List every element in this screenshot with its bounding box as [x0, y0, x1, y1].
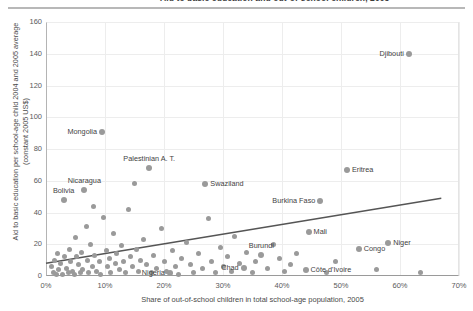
scatter-point — [344, 167, 350, 173]
scatter-point — [200, 266, 205, 271]
x-tick-label: 40% — [262, 281, 302, 290]
x-tick-label: 30% — [203, 281, 243, 290]
scatter-point — [130, 264, 135, 269]
scatter-point-label: Swaziland — [210, 180, 243, 188]
x-tick-label: 10% — [85, 281, 125, 290]
scatter-point-label: Côte d'Ivoire — [311, 266, 352, 274]
scatter-point — [136, 269, 141, 274]
scatter-point — [167, 270, 173, 276]
x-tick-label: 70% — [439, 281, 473, 290]
scatter-point-label: Palestinian A. T. — [123, 155, 175, 163]
scatter-point — [385, 240, 391, 246]
scatter-point — [54, 272, 59, 277]
scatter-point-label: Niger — [393, 239, 410, 247]
scatter-point — [277, 256, 282, 261]
scatter-point — [141, 237, 146, 242]
x-tick-label: 50% — [321, 281, 361, 290]
scatter-point — [79, 250, 84, 255]
scatter-point — [72, 272, 77, 277]
scatter-point — [134, 247, 139, 252]
scatter-point — [84, 224, 89, 229]
scatter-point — [406, 51, 412, 57]
scatter-point — [67, 247, 72, 252]
scatter-point — [196, 251, 201, 256]
gridline-vertical — [459, 22, 460, 276]
scatter-point — [97, 259, 102, 264]
scatter-point — [159, 226, 164, 231]
scatter-point — [90, 264, 95, 269]
scatter-point — [104, 248, 109, 253]
x-tick-label: 60% — [380, 281, 420, 290]
scatter-point — [333, 259, 338, 264]
scatter-point — [60, 272, 65, 277]
scatter-point — [306, 229, 312, 235]
scatter-point — [88, 242, 93, 247]
scatter-point — [265, 266, 270, 271]
scatter-point — [241, 265, 247, 271]
scatter-point — [138, 258, 143, 263]
plot-area: DjiboutiEritreaMongoliaPalestinian A. T.… — [46, 22, 459, 276]
x-tick-label: 0% — [26, 281, 66, 290]
chart-title-strip: Aid to basic education and out-of-school… — [0, 0, 473, 7]
scatter-point-label: Nigeria — [142, 269, 165, 277]
scatter-point — [151, 253, 156, 258]
x-axis-tick-labels: 0%10%20%30%40%50%60%70% — [46, 281, 459, 293]
header-divider — [8, 7, 465, 9]
y-tick-label: 0 — [2, 272, 42, 280]
page-title: Aid to basic education and out-of-school… — [160, 0, 389, 3]
scatter-point-label: Bolivia — [53, 187, 75, 195]
scatter-point — [85, 258, 90, 263]
scatter-point — [209, 259, 214, 264]
scatter-point — [162, 259, 167, 264]
scatter-point-label: Mali — [314, 228, 327, 236]
scatter-point — [98, 272, 103, 277]
scatter-point-label: Djibouti — [380, 50, 404, 58]
scatter-point-label: Mongolia — [67, 128, 97, 136]
scatter-point — [126, 207, 131, 212]
scatter-point — [113, 261, 118, 266]
scatter-point — [356, 246, 362, 252]
scatter-point-label: Burundi — [249, 242, 274, 250]
y-axis-title: Aid to basic education per school-age ch… — [11, 17, 30, 247]
scatter-point-label: Congo — [364, 245, 386, 253]
scatter-point — [218, 245, 223, 250]
scatter-point-label: Burkina Faso — [272, 197, 315, 205]
scatter-point-label: Nicaragua — [68, 177, 101, 185]
scatter-point — [91, 204, 96, 209]
scatter-point — [303, 267, 309, 273]
scatter-point-label: Chad — [221, 264, 238, 272]
scatter-point — [99, 129, 105, 135]
scatter-point — [244, 250, 249, 255]
chart-figure: Aid to basic education and out-of-school… — [0, 0, 473, 311]
x-tick-label: 20% — [144, 281, 184, 290]
scatter-point — [176, 272, 181, 277]
scatter-point — [61, 197, 67, 203]
scatter-point-label: Eritrea — [352, 166, 374, 174]
x-axis-title: Share of out-of-school children in total… — [46, 295, 459, 304]
